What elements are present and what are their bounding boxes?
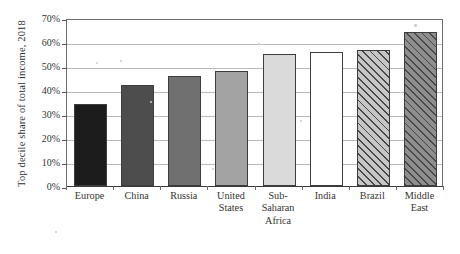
y-axis-tick-label: 40% bbox=[26, 86, 60, 96]
y-axis-tick-label: 60% bbox=[26, 38, 60, 48]
y-axis-tick-label: 0% bbox=[26, 182, 60, 192]
y-axis-tick-mark bbox=[62, 140, 67, 141]
x-axis-tick-label-line: Africa bbox=[249, 215, 308, 227]
y-axis-tick-label: 50% bbox=[26, 62, 60, 72]
bar[interactable] bbox=[357, 50, 390, 186]
y-axis-tick-mark bbox=[62, 116, 67, 117]
scan-speck bbox=[212, 168, 214, 170]
x-axis-tick-mark bbox=[443, 186, 444, 190]
x-axis-tick-label-line: Middle bbox=[390, 190, 449, 202]
y-axis-tick-label: 20% bbox=[26, 134, 60, 144]
scan-speck bbox=[150, 101, 152, 103]
y-axis-tick-label: 10% bbox=[26, 158, 60, 168]
y-axis-tick-mark bbox=[62, 44, 67, 45]
bar[interactable] bbox=[310, 52, 343, 186]
x-axis-tick-label: MiddleEast bbox=[390, 190, 449, 215]
bar[interactable] bbox=[168, 76, 201, 186]
bar[interactable] bbox=[404, 32, 437, 186]
bar-series bbox=[67, 20, 442, 186]
plot-area bbox=[66, 19, 443, 187]
bar[interactable] bbox=[263, 54, 296, 186]
scan-speck bbox=[300, 120, 302, 122]
bar[interactable] bbox=[121, 85, 154, 186]
y-axis-tick-mark bbox=[62, 164, 67, 165]
y-axis-tick-mark bbox=[62, 68, 67, 69]
x-axis-tick-labels: EuropeChinaRussiaUnitedStatesSub-Saharan… bbox=[66, 190, 443, 252]
scan-speck bbox=[55, 231, 57, 233]
y-axis-tick-label: 70% bbox=[26, 14, 60, 24]
x-axis-tick-label-line: Saharan bbox=[249, 202, 308, 214]
scan-speck bbox=[414, 24, 417, 27]
y-axis-tick-mark bbox=[62, 20, 67, 21]
scan-speck bbox=[96, 62, 98, 64]
scan-speck bbox=[258, 43, 260, 45]
bar[interactable] bbox=[215, 71, 248, 186]
bar-chart: Top decile share of total income, 2018 0… bbox=[0, 0, 460, 254]
y-axis-tick-labels: 0%10%20%30%40%50%60%70% bbox=[22, 0, 60, 254]
x-axis-tick-label-line: East bbox=[390, 202, 449, 214]
bar[interactable] bbox=[74, 104, 107, 186]
scan-speck bbox=[120, 60, 122, 62]
y-axis-tick-label: 30% bbox=[26, 110, 60, 120]
y-axis-tick-mark bbox=[62, 92, 67, 93]
